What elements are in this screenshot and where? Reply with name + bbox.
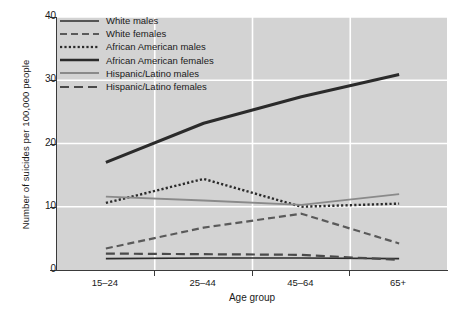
legend-swatch [60, 81, 99, 93]
series-line [106, 214, 399, 249]
y-tick-label: 10 [10, 200, 56, 211]
series-line [106, 258, 399, 259]
y-tick-label: 0 [10, 263, 56, 274]
legend-item[interactable]: Hispanic/Latino males [60, 67, 214, 80]
x-tick-label: 15–24 [65, 277, 145, 288]
chart-figure: Number of suicides per 100,000 people 40… [0, 0, 449, 314]
x-tick-label: 65+ [358, 277, 438, 288]
legend-label: White males [106, 15, 158, 26]
legend-item[interactable]: White males [60, 14, 214, 27]
series-line [106, 194, 399, 205]
legend-label: African American females [106, 55, 214, 66]
y-tick-label: 30 [10, 73, 56, 84]
legend-label: Hispanic/Latino females [106, 81, 207, 92]
y-tick-label: 20 [10, 137, 56, 148]
legend-swatch [60, 41, 99, 53]
legend-label: Hispanic/Latino males [106, 68, 199, 79]
y-axis: 403020100 [0, 0, 56, 314]
y-tick-label: 40 [10, 10, 56, 21]
x-axis-title: Age group [55, 292, 449, 303]
legend-item[interactable]: African American females [60, 54, 214, 67]
legend-label: White females [106, 28, 166, 39]
x-tick [252, 270, 253, 276]
legend-label: African American males [106, 41, 206, 52]
chart-legend: White malesWhite femalesAfrican American… [60, 14, 214, 93]
x-tick-label: 25–44 [163, 277, 243, 288]
legend-item[interactable]: Hispanic/Latino females [60, 80, 214, 93]
legend-item[interactable]: White females [60, 27, 214, 40]
legend-swatch [60, 28, 99, 40]
x-tick [349, 270, 350, 276]
x-tick [154, 270, 155, 276]
legend-swatch [60, 15, 99, 27]
legend-item[interactable]: African American males [60, 40, 214, 53]
legend-swatch [60, 54, 99, 66]
x-tick-label: 45–64 [260, 277, 340, 288]
legend-swatch [60, 67, 99, 79]
